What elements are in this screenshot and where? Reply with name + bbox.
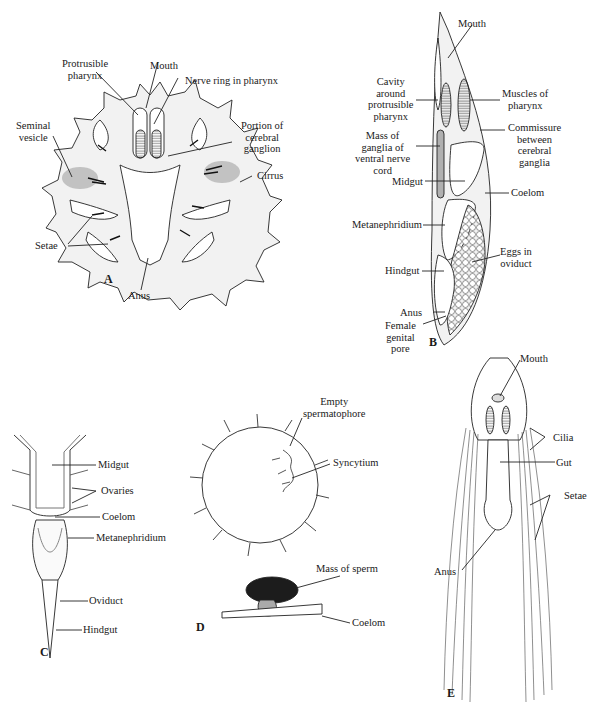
label-a-setae: Setae (35, 240, 58, 252)
label-a-nerve-ring: Nerve ring in pharynx (185, 75, 278, 87)
label-b-cavity: Cavity around protrusible pharynx (368, 76, 414, 122)
label-b-metanephridium: Metanephridium (352, 219, 422, 231)
panel-letter-e: E (447, 686, 455, 701)
label-a-cirrus: Cirrus (257, 170, 283, 182)
label-e-gut: Gut (556, 457, 572, 469)
label-b-coelom: Coelom (511, 187, 544, 199)
label-b-ganglia: Mass of ganglia of ventral nerve cord (355, 130, 410, 176)
label-b-female-pore: Female genital pore (385, 320, 416, 355)
label-a-seminal-vesicle: Seminal vesicle (16, 120, 50, 143)
label-e-setae: Setae (564, 490, 587, 502)
label-c-ovaries: Ovaries (101, 485, 134, 497)
panel-b-drawing (416, 12, 509, 345)
label-d-syncytium: Syncytium (333, 457, 379, 469)
panel-letter-b: B (429, 335, 437, 350)
panel-letter-c: C (40, 645, 49, 660)
label-e-mouth: Mouth (520, 353, 548, 365)
label-b-eggs: Eggs in oviduct (500, 246, 532, 269)
label-a-protrusible-pharynx: Protrusible pharynx (62, 58, 108, 81)
panel-letter-d: D (196, 620, 205, 635)
label-c-oviduct: Oviduct (89, 595, 123, 607)
panel-letter-a: A (104, 272, 113, 287)
label-e-cilia: Cilia (553, 432, 573, 444)
label-d-coelom: Coelom (352, 617, 385, 629)
label-b-hindgut: Hindgut (385, 265, 419, 277)
label-c-midgut: Midgut (98, 459, 129, 471)
label-a-mouth: Mouth (150, 60, 178, 72)
label-e-anus: Anus (434, 566, 456, 578)
panel-d-drawing (190, 414, 350, 623)
label-c-metanephridium: Metanephridium (96, 532, 166, 544)
label-a-cerebral-ganglion: Portion of cerebral ganglion (241, 120, 283, 155)
label-c-coelom: Coelom (102, 511, 135, 523)
label-b-anus: Anus (400, 307, 422, 319)
label-b-midgut: Midgut (392, 176, 423, 188)
label-d-mass-of-sperm: Mass of sperm (316, 563, 378, 575)
label-b-mouth: Mouth (458, 18, 486, 30)
label-b-commissure: Commissure between cerebral ganglia (508, 122, 561, 168)
panel-e-drawing (444, 358, 555, 702)
label-a-anus: Anus (128, 290, 150, 302)
label-d-empty-spermatophore: Empty spermatophore (303, 396, 365, 419)
label-b-muscles: Muscles of pharynx (502, 88, 548, 111)
label-c-hindgut: Hindgut (83, 624, 117, 636)
panel-a-drawing (42, 62, 282, 310)
